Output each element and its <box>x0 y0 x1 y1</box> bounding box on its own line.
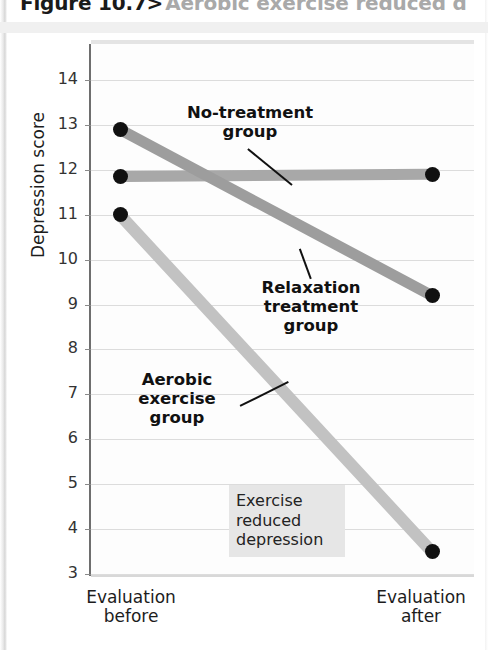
gridline <box>91 574 474 575</box>
y-tick-mark <box>85 394 91 395</box>
series-line-relaxation-treatment-group <box>117 124 434 300</box>
y-tick-label: 12 <box>44 161 78 177</box>
y-tick-mark <box>85 529 91 530</box>
figure-title: Figure 10.7>Aerobic exercise reduced d <box>20 0 488 21</box>
y-tick-mark <box>85 215 91 216</box>
callout-exercise-reduced-depression: Exercise reduced depression <box>229 485 345 557</box>
title-separator-band <box>0 22 488 33</box>
y-tick-label: 14 <box>44 71 78 87</box>
data-point-marker <box>113 122 128 137</box>
figure-caption-text: Aerobic exercise reduced d <box>165 0 466 15</box>
y-tick-label: 5 <box>44 475 78 491</box>
y-tick-mark <box>85 80 91 81</box>
annotation-no-treatment-group: No-treatment group <box>170 104 330 142</box>
gridline <box>91 80 474 81</box>
annotation-relaxation-treatment-group: Relaxation treatment group <box>238 279 384 335</box>
y-tick-label: 3 <box>44 565 78 581</box>
data-point-marker <box>425 167 440 182</box>
y-tick-label: 8 <box>44 340 78 356</box>
page-edge-left-decoration <box>0 0 7 650</box>
y-tick-label: 10 <box>44 251 78 267</box>
annotation-aerobic-exercise-group: Aerobic exercise group <box>116 371 238 427</box>
y-tick-label: 11 <box>44 206 78 222</box>
figure-number: Figure 10.7> <box>20 0 163 15</box>
figure-root: Figure 10.7>Aerobic exercise reduced d D… <box>0 0 488 650</box>
data-point-marker <box>425 544 440 559</box>
y-tick-mark <box>85 439 91 440</box>
y-tick-label: 9 <box>44 296 78 312</box>
data-point-marker <box>425 288 440 303</box>
y-tick-label: 4 <box>44 520 78 536</box>
gridline <box>91 439 474 440</box>
y-tick-label: 13 <box>44 116 78 132</box>
y-tick-mark <box>85 484 91 485</box>
y-tick-mark <box>85 349 91 350</box>
y-tick-label: 7 <box>44 385 78 401</box>
y-tick-mark <box>85 170 91 171</box>
y-tick-mark <box>85 574 91 575</box>
y-tick-mark <box>85 260 91 261</box>
x-tick-label-before: Evaluation before <box>66 588 196 626</box>
y-tick-label: 6 <box>44 430 78 446</box>
data-point-marker <box>113 169 128 184</box>
x-tick-label-after: Evaluation after <box>356 588 486 626</box>
y-tick-mark <box>85 125 91 126</box>
gridline <box>91 349 474 350</box>
y-tick-mark <box>85 305 91 306</box>
data-point-marker <box>113 207 128 222</box>
gridline <box>91 260 474 261</box>
